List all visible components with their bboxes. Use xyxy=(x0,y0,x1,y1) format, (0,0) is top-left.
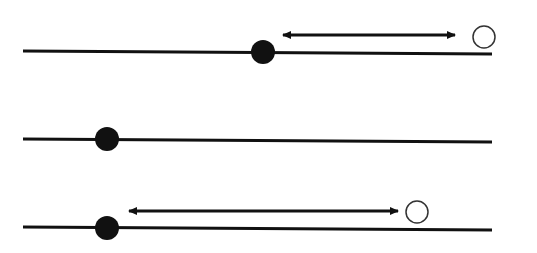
filled-dot xyxy=(95,127,119,151)
open-circle xyxy=(406,201,428,223)
open-circle xyxy=(473,26,495,48)
diagram-canvas xyxy=(0,0,537,253)
filled-dot xyxy=(251,40,275,64)
row-3 xyxy=(23,201,492,240)
filled-dot xyxy=(95,216,119,240)
horizontal-line xyxy=(23,227,492,230)
row-1 xyxy=(23,26,495,64)
horizontal-line xyxy=(23,139,492,142)
row-2 xyxy=(23,127,492,151)
